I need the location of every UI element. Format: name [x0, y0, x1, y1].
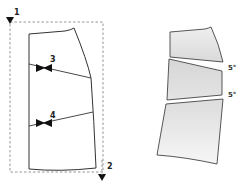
marker-2-triangle-icon [98, 174, 106, 181]
right-panel: 5° 5° [157, 27, 236, 164]
pattern-piece-outline [29, 28, 96, 170]
pattern-diagram: 1 2 3 4 5° 5° [0, 0, 243, 190]
notch-3-label: 3 [50, 55, 56, 64]
marker-2-label: 2 [107, 162, 113, 171]
top-section [170, 27, 223, 62]
marker-1-label: 1 [14, 8, 20, 17]
notch-3-icon [36, 64, 52, 72]
notch-4-label: 4 [50, 111, 56, 120]
angle-label-top: 5° [228, 64, 236, 72]
bottom-section [157, 99, 223, 164]
dashed-bounding-box [10, 22, 103, 172]
marker-1-triangle-icon [6, 17, 14, 24]
left-panel: 1 2 3 4 [6, 8, 113, 181]
notch-4-icon [36, 119, 52, 127]
angle-label-bottom: 5° [228, 91, 236, 99]
middle-section [167, 59, 222, 100]
